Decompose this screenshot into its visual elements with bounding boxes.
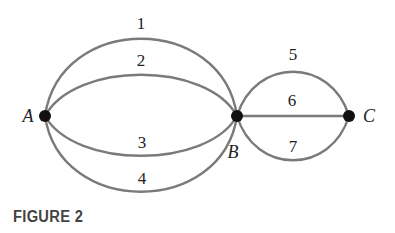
multigraph-diagram: A B C 1 2 3 4 5 6 7 <box>0 0 395 233</box>
vertex-label-b: B <box>228 142 239 162</box>
edge-label-7: 7 <box>289 137 298 156</box>
vertex-b <box>231 110 243 122</box>
vertex-a <box>39 110 51 122</box>
vertex-label-c: C <box>363 106 376 126</box>
edge-label-2: 2 <box>137 51 146 70</box>
edge-label-1: 1 <box>137 14 146 33</box>
vertex-label-a: A <box>22 106 35 126</box>
edge-label-3: 3 <box>138 133 147 152</box>
edge-label-5: 5 <box>289 45 298 64</box>
edge-label-4: 4 <box>138 169 147 188</box>
edge-2 <box>45 75 237 116</box>
figure-caption: FIGURE 2 <box>13 208 83 226</box>
vertex-c <box>343 110 355 122</box>
edge-label-6: 6 <box>288 91 297 110</box>
